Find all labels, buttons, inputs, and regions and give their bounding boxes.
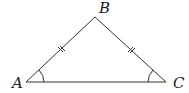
angle-arc-c — [148, 70, 153, 82]
vertex-label-b: B — [98, 0, 110, 17]
angle-arc-a — [39, 70, 44, 82]
triangle-abc — [26, 17, 166, 82]
vertex-label-c: C — [173, 74, 185, 92]
triangle-diagram: A B C — [0, 0, 189, 93]
vertex-label-a: A — [10, 74, 23, 92]
